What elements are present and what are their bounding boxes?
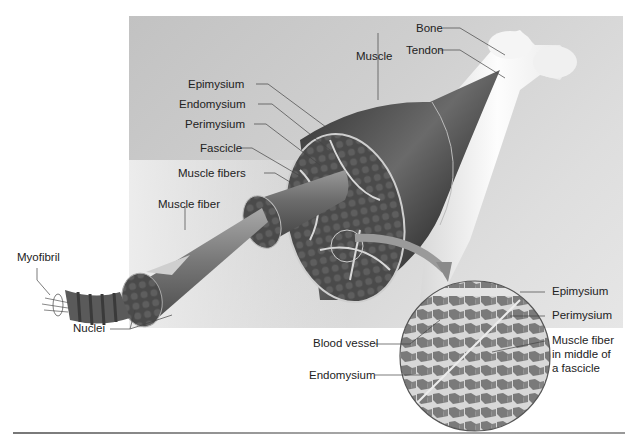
myofibril-shape bbox=[65, 290, 130, 324]
label-endomysium: Endomysium bbox=[179, 98, 245, 111]
label-micro-perimysium: Perimysium bbox=[552, 309, 612, 322]
label-muscle-fiber: Muscle fiber bbox=[158, 198, 220, 211]
label-myofibril: Myofibril bbox=[17, 251, 60, 264]
label-micro-muscle-fiber-1: Muscle fiber bbox=[552, 334, 614, 347]
label-blood-vessel: Blood vessel bbox=[313, 337, 378, 350]
label-micro-muscle-fiber-3: a fascicle bbox=[552, 362, 600, 375]
bottom-rule bbox=[13, 432, 625, 434]
label-muscle-fibers: Muscle fibers bbox=[178, 167, 246, 180]
label-nuclei: Nuclei bbox=[73, 322, 105, 335]
label-fascicle: Fascicle bbox=[200, 142, 242, 155]
label-tendon: Tendon bbox=[406, 44, 444, 57]
label-micro-muscle-fiber-2: in middle of bbox=[552, 348, 611, 361]
label-muscle: Muscle bbox=[356, 50, 392, 63]
label-epimysium: Epimysium bbox=[188, 78, 244, 91]
label-bone: Bone bbox=[416, 22, 443, 35]
label-micro-epimysium: Epimysium bbox=[552, 285, 608, 298]
label-micro-endomysium: Endomysium bbox=[309, 369, 375, 382]
label-perimysium: Perimysium bbox=[185, 118, 245, 131]
